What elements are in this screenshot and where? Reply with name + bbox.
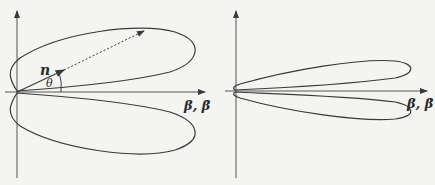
right-axis-label: β, β̇ [407, 96, 433, 111]
diagram-canvas [0, 0, 435, 185]
right-lower-lobe [234, 92, 411, 120]
theta-arc [59, 72, 61, 92]
left-lower-lobe [10, 93, 195, 154]
n-vector-label: n [40, 62, 50, 78]
left-panel [5, 11, 205, 178]
right-upper-lobe [234, 61, 411, 90]
theta-label: θ [46, 77, 53, 90]
left-axis-label: β, β̇ [184, 98, 210, 113]
right-panel [225, 11, 427, 178]
n-vector-dashed-extension [64, 31, 144, 70]
